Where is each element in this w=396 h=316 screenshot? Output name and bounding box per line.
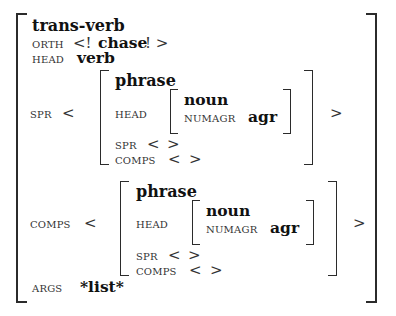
- comps-head-type-label: noun: [206, 203, 250, 219]
- comps-head-numagr-value: agr: [270, 220, 299, 236]
- comps-head-left-bracket: [192, 200, 200, 245]
- spr-close-angle: >: [330, 106, 343, 121]
- comps-item-right-bracket: [328, 181, 337, 276]
- orth-close-delimiter: ! >: [145, 36, 168, 51]
- comps-item-spr-attribute-label: SPR: [136, 248, 158, 263]
- comps-item-head-attribute-label: HEAD: [136, 216, 168, 231]
- comps-open-angle: <: [84, 216, 97, 231]
- spr-item-comps-close-angle: >: [189, 152, 202, 167]
- spr-head-right-bracket: [283, 89, 291, 134]
- spr-attribute-label: SPR: [30, 106, 52, 121]
- spr-head-left-bracket: [170, 89, 178, 134]
- spr-head-numagr-value: agr: [248, 109, 277, 125]
- comps-item-comps-close-angle: >: [210, 263, 223, 278]
- comps-attribute-label: COMPS: [30, 216, 71, 231]
- outer-left-bracket: [16, 13, 27, 303]
- args-attribute-label: ARGS: [32, 280, 62, 295]
- spr-item-left-bracket: [100, 70, 109, 165]
- spr-item-spr-attribute-label: SPR: [115, 137, 137, 152]
- outer-type-label: trans-verb: [32, 18, 125, 34]
- spr-head-type-label: noun: [184, 92, 228, 108]
- comps-item-comps-open-angle: <: [189, 263, 202, 278]
- orth-attribute-label: ORTH: [32, 36, 64, 51]
- args-value: *list*: [80, 279, 124, 295]
- spr-item-comps-open-angle: <: [168, 152, 181, 167]
- comps-item-spr-open-angle: <: [168, 248, 181, 263]
- outer-right-bracket: [366, 13, 377, 303]
- comps-head-right-bracket: [306, 200, 314, 245]
- comps-close-angle: >: [353, 216, 366, 231]
- spr-item-comps-attribute-label: COMPS: [115, 152, 156, 167]
- spr-item-type-label: phrase: [115, 73, 176, 89]
- avm-figure: trans-verb ORTH <! chase ! > HEAD verb S…: [0, 0, 396, 316]
- spr-open-angle: <: [62, 106, 75, 121]
- head-value: verb: [77, 50, 115, 66]
- comps-item-type-label: phrase: [136, 184, 197, 200]
- spr-head-numagr-attribute-label: NUMAGR: [184, 110, 235, 125]
- comps-item-comps-attribute-label: COMPS: [136, 263, 177, 278]
- spr-item-spr-open-angle: <: [147, 137, 160, 152]
- comps-head-numagr-attribute-label: NUMAGR: [206, 221, 257, 236]
- head-attribute-label: HEAD: [32, 51, 64, 66]
- spr-item-head-attribute-label: HEAD: [115, 106, 147, 121]
- spr-item-right-bracket: [304, 70, 313, 165]
- comps-item-left-bracket: [120, 181, 129, 276]
